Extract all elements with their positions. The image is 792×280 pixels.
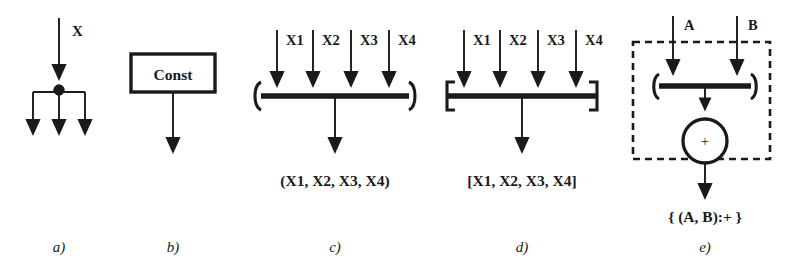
fan-out-node (54, 85, 64, 95)
composite-output-label: { (A, B):+ } (668, 208, 742, 226)
tuple-output-arrowhead (327, 137, 342, 154)
tuple-input-label-4: X4 (398, 32, 416, 48)
composite-input-arrowhead-b (729, 59, 744, 76)
tuple-close-paren (409, 82, 415, 110)
panel-d-list-constructor: X1 X2 X3 X4 [X1, X2, X3, X4] d) (447, 30, 603, 256)
panel-caption-b: b) (167, 239, 180, 256)
list-input-label-4: X4 (585, 32, 603, 48)
composite-input-label-b: B (748, 17, 758, 33)
panel-b-constant: Const b) (131, 54, 215, 256)
tuple-input-arrowhead-4 (381, 71, 396, 88)
const-box-label: Const (154, 66, 194, 83)
dataflow-notation-figure: X a) Const b) X1 X2 X3 X4 (0, 0, 792, 280)
panel-a-fan-out: X a) (25, 18, 92, 256)
composite-output-arrowhead (697, 183, 712, 200)
output-arrowhead-1 (25, 119, 40, 136)
composite-internal-arrowhead (699, 98, 712, 112)
list-output-label: [X1, X2, X3, X4] (467, 172, 576, 189)
panel-c-tuple-constructor: X1 X2 X3 X4 (X1, X2, X3, X4) c) (255, 30, 416, 256)
panel-caption-c: c) (329, 239, 341, 256)
list-input-arrowhead-1 (456, 71, 471, 88)
list-input-arrowhead-4 (568, 71, 583, 88)
panel-caption-e: e) (699, 239, 711, 256)
tuple-open-paren (255, 82, 261, 110)
tuple-input-arrowhead-2 (305, 71, 320, 88)
output-arrowhead-2 (51, 119, 66, 136)
list-input-arrowhead-3 (530, 71, 545, 88)
tuple-input-arrowhead-3 (343, 71, 358, 88)
tuple-input-label-1: X1 (286, 32, 304, 48)
tuple-input-label-2: X2 (322, 32, 340, 48)
composite-close-paren (751, 74, 756, 99)
list-input-label-1: X1 (473, 32, 491, 48)
list-input-label-3: X3 (547, 32, 565, 48)
panel-caption-a: a) (53, 239, 66, 256)
input-label-x: X (72, 23, 83, 39)
operator-plus-glyph: + (701, 134, 709, 149)
list-output-arrowhead (514, 137, 529, 154)
tuple-output-label: (X1, X2, X3, X4) (280, 172, 389, 190)
tuple-input-label-3: X3 (360, 32, 378, 48)
list-input-arrowhead-2 (492, 71, 507, 88)
list-input-label-2: X2 (509, 32, 527, 48)
composite-input-label-a: A (684, 17, 695, 33)
panel-e-composite-operation: A B + { (A, B):+ } e) (633, 16, 770, 256)
output-arrowhead-3 (77, 119, 92, 136)
tuple-input-arrowhead-1 (269, 71, 284, 88)
const-output-arrowhead (165, 137, 180, 154)
panel-caption-d: d) (516, 239, 529, 256)
composite-open-paren (654, 74, 659, 99)
input-arrowhead (51, 64, 66, 81)
composite-input-arrowhead-a (665, 59, 680, 76)
